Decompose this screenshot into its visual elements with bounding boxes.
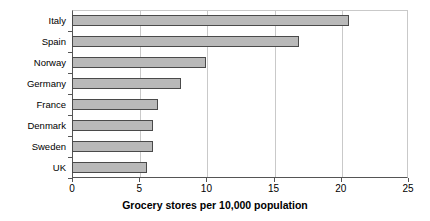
y-axis-tick bbox=[68, 31, 72, 32]
bar-sweden[interactable] bbox=[72, 141, 153, 152]
y-axis-tick bbox=[68, 136, 72, 137]
y-axis-label-denmark: Denmark bbox=[27, 120, 66, 131]
x-axis-tick-label: 5 bbox=[124, 183, 154, 195]
bar-italy[interactable] bbox=[72, 15, 349, 26]
bar-row bbox=[72, 99, 408, 110]
y-axis-tick bbox=[68, 115, 72, 116]
bar-chart: Grocery stores per 10,000 population Ita… bbox=[0, 0, 430, 221]
bar-denmark[interactable] bbox=[72, 120, 153, 131]
y-axis-tick bbox=[68, 157, 72, 158]
x-axis-tick-label: 25 bbox=[393, 183, 423, 195]
x-axis-tick bbox=[72, 178, 73, 182]
y-axis-label-spain: Spain bbox=[42, 36, 66, 47]
bar-row bbox=[72, 36, 408, 47]
bar-row bbox=[72, 120, 408, 131]
x-axis-tick-label: 10 bbox=[191, 183, 221, 195]
x-axis-tick bbox=[206, 178, 207, 182]
bar-france[interactable] bbox=[72, 99, 158, 110]
x-axis-tick-label: 0 bbox=[57, 183, 87, 195]
x-axis-tick bbox=[274, 178, 275, 182]
y-axis-tick bbox=[68, 73, 72, 74]
x-axis-tick bbox=[408, 178, 409, 182]
x-axis-tick-label: 20 bbox=[326, 183, 356, 195]
bar-norway[interactable] bbox=[72, 57, 206, 68]
bar-row bbox=[72, 162, 408, 173]
y-axis-label-uk: UK bbox=[53, 162, 66, 173]
x-axis-title: Grocery stores per 10,000 population bbox=[0, 199, 430, 211]
y-axis-tick bbox=[68, 94, 72, 95]
y-axis-tick bbox=[68, 52, 72, 53]
bar-row bbox=[72, 141, 408, 152]
y-axis-label-france: France bbox=[36, 99, 66, 110]
bar-row bbox=[72, 78, 408, 89]
y-axis-label-sweden: Sweden bbox=[32, 141, 66, 152]
bar-uk[interactable] bbox=[72, 162, 147, 173]
bar-spain[interactable] bbox=[72, 36, 299, 47]
y-axis-label-italy: Italy bbox=[49, 15, 66, 26]
x-axis-tick-label: 15 bbox=[259, 183, 289, 195]
x-axis-tick bbox=[139, 178, 140, 182]
bar-row bbox=[72, 57, 408, 68]
bar-germany[interactable] bbox=[72, 78, 181, 89]
y-axis-label-germany: Germany bbox=[27, 78, 66, 89]
x-axis-tick bbox=[341, 178, 342, 182]
bar-row bbox=[72, 15, 408, 26]
y-axis-label-norway: Norway bbox=[34, 57, 66, 68]
